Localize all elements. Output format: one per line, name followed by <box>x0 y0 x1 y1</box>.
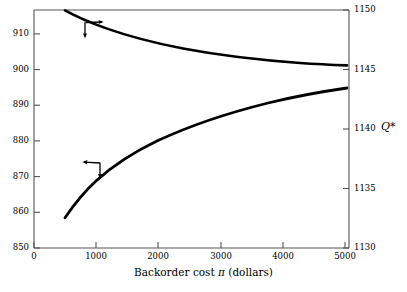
xtick-label-3000: 3000 <box>201 252 241 261</box>
ytick-label-right-1130: 1130 <box>354 243 386 252</box>
ytick-label-right-1145: 1145 <box>354 65 386 74</box>
xtick-label-0: 0 <box>14 252 54 261</box>
right-axis-title-base: Q <box>381 120 390 133</box>
ytick-label-right-1135: 1135 <box>354 184 386 193</box>
xtick-label-4000: 4000 <box>263 252 303 261</box>
x-axis-title-prefix: Backorder cost <box>134 266 218 278</box>
upper-curve-arrow-annotation <box>83 20 104 38</box>
xtick-label-2000: 2000 <box>138 252 178 261</box>
ytick-label-left-890: 890 <box>2 100 29 109</box>
right-axis-title: Q* <box>381 120 396 133</box>
arrow-down-icon <box>83 22 87 38</box>
xtick-label-5000: 5000 <box>325 252 365 261</box>
lower-curve <box>65 88 347 218</box>
chart-figure: 850 860 870 880 890 900 910 1130 1135 11… <box>0 0 407 292</box>
ytick-label-left-900: 900 <box>2 65 29 74</box>
lower-curve-arrow-annotation <box>82 160 102 179</box>
bottom-axis-ticks <box>34 242 345 248</box>
xtick-label-1000: 1000 <box>76 252 116 261</box>
x-axis-title: Backorder cost π (dollars) <box>0 266 407 278</box>
upper-curve <box>65 10 347 65</box>
ytick-label-left-910: 910 <box>2 29 29 38</box>
ytick-label-left-870: 870 <box>2 172 29 181</box>
x-axis-title-suffix: (dollars) <box>225 266 273 278</box>
axis-frame <box>34 10 349 248</box>
arrow-left-icon <box>82 160 100 164</box>
pi-symbol: π <box>218 266 225 278</box>
ytick-label-left-860: 860 <box>2 207 29 216</box>
ytick-label-right-1150: 1150 <box>354 5 386 14</box>
ytick-label-left-880: 880 <box>2 136 29 145</box>
right-axis-title-star: * <box>390 120 396 133</box>
ytick-label-left-850: 850 <box>2 243 29 252</box>
right-axis-ticks <box>343 10 349 248</box>
plot-canvas <box>0 0 407 292</box>
left-axis-ticks <box>34 34 40 248</box>
